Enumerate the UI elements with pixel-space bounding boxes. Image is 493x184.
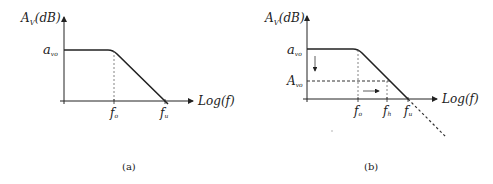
panel-b: AV(dB) avo Avo Log(f) fo fh fu (b) xyxy=(264,11,479,172)
panel-a: AV(dB) avo Log(f) fo fu (a) xyxy=(20,11,235,172)
bode-diagram: AV(dB) avo Log(f) fo fu (a) AV xyxy=(0,0,493,184)
response-curve-a xyxy=(64,50,168,104)
y-axis-label-b: AV(dB) xyxy=(264,11,305,27)
tick-label-fo-b: fo xyxy=(353,104,362,118)
reduced-gain-label-b: Avo xyxy=(286,74,303,88)
tick-label-fh-b: fh xyxy=(382,104,391,118)
response-extension-b xyxy=(408,99,446,137)
caption-a: (a) xyxy=(122,161,136,172)
x-axis-label-b: Log(f) xyxy=(441,92,479,106)
x-axis-label-a: Log(f) xyxy=(197,94,235,108)
tick-label-fu-b: fu xyxy=(403,104,412,118)
caption-b: (b) xyxy=(364,161,378,172)
plateau-label-a: avo xyxy=(43,42,58,57)
plateau-label-b: avo xyxy=(287,42,302,57)
response-curve-b xyxy=(307,49,408,99)
tick-label-fo-a: fo xyxy=(109,106,118,120)
y-axis-label-a: AV(dB) xyxy=(20,11,61,27)
tick-label-fu-a: fu xyxy=(159,106,168,120)
